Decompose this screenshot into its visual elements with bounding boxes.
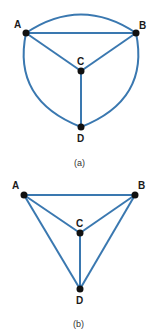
node-label-a: A [12,180,19,191]
node-a [21,192,28,199]
caption-b: (b) [73,319,84,329]
node-a [23,30,30,37]
edge-b-d-curved [81,33,138,127]
edge-a-d [24,195,80,289]
diagram-a: A B C D (a) [14,15,146,169]
node-d [77,286,84,293]
node-c [78,68,85,75]
node-c [77,230,84,237]
graph-figure: A B C D (a) A B C D (b) [0,0,165,335]
node-label-d: D [77,133,84,144]
edge-a-c [26,33,81,71]
node-label-c: C [76,218,83,229]
edge-b-c [81,33,136,71]
caption-a: (a) [74,158,85,168]
edge-a-d-curved [24,33,81,127]
node-label-d: D [76,295,83,306]
edge-a-c [24,195,80,233]
edge-a-b-curved [26,15,136,34]
node-b [132,192,139,199]
edge-b-c [80,195,135,233]
node-label-b: B [138,180,145,191]
node-d [78,124,85,131]
node-label-c: C [77,56,84,67]
edge-b-d [80,195,135,289]
diagram-b: A B C D (b) [12,180,145,329]
node-label-b: B [139,20,146,31]
node-label-a: A [14,19,21,30]
